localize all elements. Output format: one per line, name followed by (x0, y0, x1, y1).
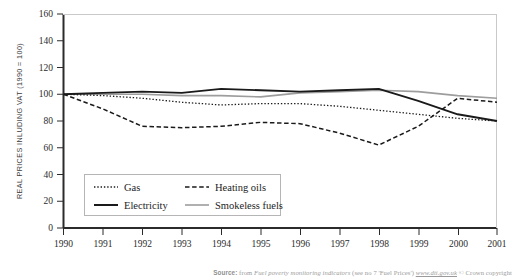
y-tick-label: 80 (44, 116, 54, 126)
y-axis-title: REAL PRICES INLUDING VAT (1990 = 100) (15, 43, 24, 199)
source-suffix: © Crown copyright (457, 269, 512, 276)
y-tick-label: 100 (39, 89, 54, 99)
y-tick-label: 20 (44, 196, 54, 206)
x-axis-ticks (64, 228, 498, 235)
source-publication: Fuel poverty monitoring indicators (254, 269, 350, 276)
x-tick-label: 1996 (291, 239, 310, 249)
price-index-line-chart: 0 20 40 60 80 100 120 140 160 REAL PRICE… (0, 0, 518, 280)
y-tick-label: 0 (48, 223, 53, 233)
source-note: Source: from Fuel poverty monitoring ind… (0, 269, 512, 276)
y-tick-label: 140 (39, 36, 54, 46)
x-tick-label: 1993 (173, 239, 192, 249)
x-tick-label: 1999 (410, 239, 429, 249)
chart-figure: 0 20 40 60 80 100 120 140 160 REAL PRICE… (0, 0, 518, 280)
legend-label-gas: Gas (124, 182, 140, 193)
source-label: Source: (213, 269, 237, 276)
x-tick-label: 1997 (331, 239, 350, 249)
y-tick-label: 60 (44, 143, 54, 153)
x-tick-label: 1994 (212, 239, 231, 249)
x-tick-label: 1991 (94, 239, 113, 249)
y-tick-label: 160 (39, 9, 54, 19)
x-tick-label: 1998 (370, 239, 389, 249)
x-axis-tick-labels: 1990 1991 1992 1993 1994 1995 1996 1997 … (54, 239, 507, 249)
y-tick-label: 40 (44, 170, 54, 180)
x-tick-label: 1992 (133, 239, 152, 249)
legend-label-electricity: Electricity (124, 200, 168, 211)
x-tick-label: 2000 (449, 239, 468, 249)
legend-label-smokeless-fuels: Smokeless fuels (215, 200, 283, 211)
x-tick-label: 1990 (54, 239, 73, 249)
source-middle: (see no 7 'Fuel Prices') (350, 269, 415, 276)
legend-label-heating-oils: Heating oils (215, 182, 266, 193)
x-tick-label: 1995 (252, 239, 271, 249)
y-axis-ticks (57, 14, 63, 228)
source-url: www.dti.gov.uk (416, 269, 457, 276)
x-tick-label: 2001 (488, 239, 507, 249)
y-tick-label: 120 (39, 63, 54, 73)
y-axis-tick-labels: 0 20 40 60 80 100 120 140 160 (39, 9, 54, 233)
chart-legend: Gas Heating oils Electricity Smokeless f… (85, 175, 283, 216)
source-prefix: from (237, 269, 254, 276)
